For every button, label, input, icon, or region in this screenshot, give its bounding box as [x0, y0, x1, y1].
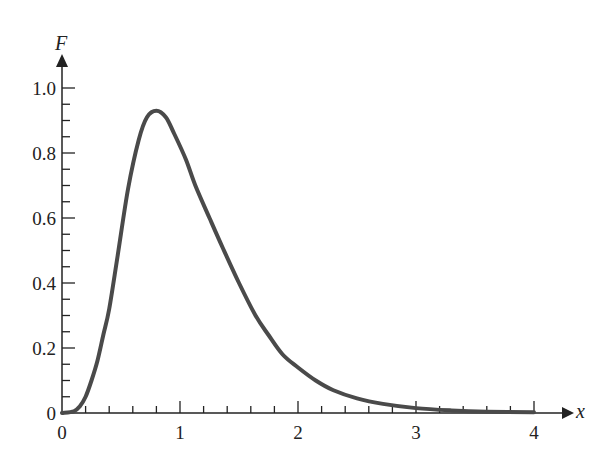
x-axis-label: x: [575, 400, 585, 422]
y-tick-label: 0.2: [32, 338, 56, 359]
ticks: [62, 88, 534, 413]
y-tick-label: 0: [47, 403, 57, 424]
x-tick-label: 2: [293, 422, 303, 443]
data-curve: [62, 111, 534, 413]
y-tick-label: 0.6: [32, 208, 56, 229]
y-axis-label: F: [54, 32, 68, 54]
x-tick-label: 1: [175, 422, 185, 443]
y-tick-label: 0.4: [32, 273, 56, 294]
y-axis-arrow-icon: [56, 54, 68, 67]
x-tick-label: 0: [57, 422, 67, 443]
y-tick-label: 0.8: [32, 143, 56, 164]
x-tick-label: 3: [411, 422, 421, 443]
axes: [56, 54, 574, 419]
y-tick-label: 1.0: [32, 78, 56, 99]
x-tick-label: 4: [529, 422, 539, 443]
x-axis-arrow-icon: [562, 407, 574, 419]
tick-labels: 0123400.20.40.60.81.0: [32, 78, 539, 443]
chart: 0123400.20.40.60.81.0 x F: [0, 0, 607, 467]
